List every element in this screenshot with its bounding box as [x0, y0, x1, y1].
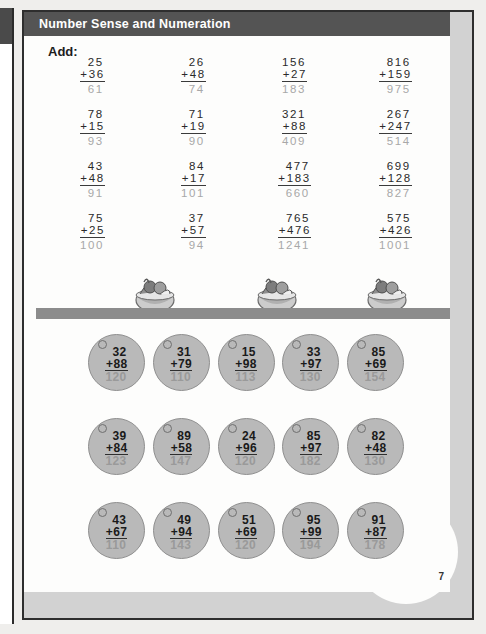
- bubble-problem[interactable]: 39 +84 123: [88, 418, 145, 475]
- addend-bottom: +48: [80, 172, 104, 186]
- addend-bottom: +17: [181, 172, 206, 186]
- addend-bottom: +19: [181, 120, 205, 134]
- addend-top: 43: [80, 160, 104, 172]
- addend-bottom: +88: [105, 358, 127, 371]
- answer-value[interactable]: 113: [235, 371, 257, 383]
- answer-value[interactable]: 178: [364, 539, 386, 551]
- answer-value[interactable]: 110: [170, 371, 192, 383]
- carry-marker-icon: [228, 340, 237, 349]
- addend-bottom: +99: [300, 526, 322, 539]
- addend-top: 156: [282, 56, 307, 68]
- answer-value[interactable]: 130: [364, 455, 386, 467]
- addend-top: 575: [379, 212, 412, 224]
- answer-value[interactable]: 100: [80, 238, 105, 251]
- bubble-problem[interactable]: 85 +69 154: [347, 334, 404, 391]
- answer-value[interactable]: 409: [282, 134, 307, 147]
- bubble-row: 39 +84 123 89 +58 147 24: [42, 418, 446, 475]
- addition-problem: 37 +57 94: [181, 212, 205, 251]
- bubble-problem[interactable]: 15 +98 113: [218, 334, 275, 391]
- answer-value[interactable]: 120: [105, 371, 127, 383]
- addition-problem: 477 +183 660: [278, 160, 310, 199]
- bubble-equation: 32 +88 120: [105, 342, 127, 384]
- bubble-equation: 85 +97 182: [300, 426, 322, 468]
- answer-value[interactable]: 660: [278, 186, 310, 199]
- carry-marker-icon: [98, 424, 107, 433]
- page-number: 7: [438, 571, 444, 582]
- addend-top: 765: [278, 212, 311, 224]
- addend-bottom: +67: [106, 526, 128, 539]
- answer-value[interactable]: 120: [235, 539, 257, 551]
- answer-value[interactable]: 975: [379, 82, 411, 95]
- answer-value[interactable]: 90: [181, 134, 205, 147]
- addend-bottom: +159: [379, 68, 411, 82]
- answer-value[interactable]: 143: [170, 539, 192, 551]
- bubble-equation: 85 +69 154: [364, 342, 386, 384]
- carry-marker-icon: [228, 424, 237, 433]
- bubble-equation: 15 +98 113: [235, 342, 257, 384]
- carry-marker-icon: [357, 508, 366, 517]
- right-margin-strip: [450, 12, 472, 618]
- addend-top: 71: [181, 108, 205, 120]
- problem-cell: 321 +88 409: [244, 108, 345, 147]
- bubble-problem[interactable]: 91 +87 178: [347, 502, 404, 559]
- answer-value[interactable]: 183: [282, 82, 307, 95]
- bubble-equation: 43 +67 110: [106, 510, 128, 552]
- bubble-problem[interactable]: 49 +94 143: [153, 502, 210, 559]
- answer-value[interactable]: 1001: [379, 238, 412, 251]
- addend-bottom: +87: [364, 526, 386, 539]
- answer-value[interactable]: 120: [235, 455, 257, 467]
- answer-value[interactable]: 147: [170, 455, 192, 467]
- addend-bottom: +426: [379, 224, 412, 238]
- problem-cell: 25 +36 61: [42, 56, 143, 95]
- bubble-problem[interactable]: 32 +88 120: [88, 334, 145, 391]
- addend-top: 816: [379, 56, 411, 68]
- answer-value[interactable]: 93: [80, 134, 104, 147]
- answer-value[interactable]: 61: [80, 82, 104, 95]
- bubble-equation: 49 +94 143: [170, 510, 192, 552]
- carry-marker-icon: [163, 508, 172, 517]
- bubble-equation: 91 +87 178: [364, 510, 386, 552]
- answer-value[interactable]: 101: [181, 186, 206, 199]
- carry-marker-icon: [228, 508, 237, 517]
- answer-value[interactable]: 1241: [278, 238, 311, 251]
- addend-top: 699: [379, 160, 411, 172]
- answer-value[interactable]: 514: [379, 134, 411, 147]
- carry-marker-icon: [98, 508, 107, 517]
- bubble-problem[interactable]: 43 +67 110: [88, 502, 145, 559]
- bubble-problem[interactable]: 24 +96 120: [218, 418, 275, 475]
- answer-value[interactable]: 194: [300, 539, 322, 551]
- bubble-problem[interactable]: 31 +79 110: [153, 334, 210, 391]
- addend-bottom: +69: [235, 526, 257, 539]
- addend-bottom: +27: [282, 68, 307, 82]
- bubble-problem[interactable]: 51 +69 120: [218, 502, 275, 559]
- answer-value[interactable]: 130: [300, 371, 322, 383]
- bubble-problem[interactable]: 82 +48 130: [347, 418, 404, 475]
- addend-bottom: +15: [80, 120, 104, 134]
- answer-value[interactable]: 91: [80, 186, 104, 199]
- problem-cell: 477 +183 660: [244, 160, 345, 199]
- answer-value[interactable]: 827: [379, 186, 411, 199]
- addend-bottom: +476: [278, 224, 311, 238]
- bubble-problem[interactable]: 85 +97 182: [282, 418, 339, 475]
- vertical-problems-grid: 25 +36 61 26 +48 74 156 +27: [42, 56, 446, 264]
- bubble-problem[interactable]: 33 +97 130: [282, 334, 339, 391]
- addend-bottom: +183: [278, 172, 310, 186]
- bubble-problem[interactable]: 89 +58 147: [153, 418, 210, 475]
- addend-bottom: +48: [181, 68, 205, 82]
- answer-value[interactable]: 74: [181, 82, 205, 95]
- problem-cell: 816 +159 975: [345, 56, 446, 95]
- addition-problem: 71 +19 90: [181, 108, 205, 147]
- answer-value[interactable]: 123: [105, 455, 127, 467]
- answer-value[interactable]: 110: [106, 539, 128, 551]
- addition-problem: 765 +476 1241: [278, 212, 311, 251]
- addition-problem: 25 +36 61: [80, 56, 104, 95]
- bubble-problem[interactable]: 95 +99 194: [282, 502, 339, 559]
- answer-value[interactable]: 94: [181, 238, 205, 251]
- answer-value[interactable]: 182: [300, 455, 322, 467]
- problem-cell: 84 +17 101: [143, 160, 244, 199]
- addend-bottom: +96: [235, 442, 257, 455]
- bubble-equation: 89 +58 147: [170, 426, 192, 468]
- answer-value[interactable]: 154: [364, 371, 386, 383]
- addition-problem: 43 +48 91: [80, 160, 104, 199]
- addition-problem: 575 +426 1001: [379, 212, 412, 251]
